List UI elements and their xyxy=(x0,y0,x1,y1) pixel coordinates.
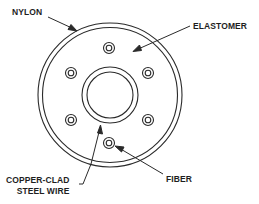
wire-ring-inner xyxy=(87,72,133,118)
nylon-label: NYLON xyxy=(12,7,42,18)
elastomer-label: ELASTOMER xyxy=(193,21,247,32)
nylon-jacket-inner xyxy=(43,28,178,163)
fiber-top xyxy=(104,43,115,54)
fiber-lower-right xyxy=(143,115,154,126)
steel-wire-label-line2: STEEL WIRE xyxy=(6,186,69,197)
fiber-label: FIBER xyxy=(166,174,192,185)
nylon-leader-arrow xyxy=(48,17,77,31)
fiber-lower-left xyxy=(66,115,77,126)
wire-ring-outer xyxy=(82,67,138,123)
fiber-upper-left xyxy=(66,68,77,79)
fiber-upper-right xyxy=(143,68,154,79)
copper-clad-label-line1: COPPER-CLAD xyxy=(6,175,69,186)
fiber-bottom xyxy=(104,138,115,149)
wire-leader-arrow xyxy=(79,125,103,184)
copper-clad-steel-wire-label: COPPER-CLAD STEEL WIRE xyxy=(6,175,69,197)
